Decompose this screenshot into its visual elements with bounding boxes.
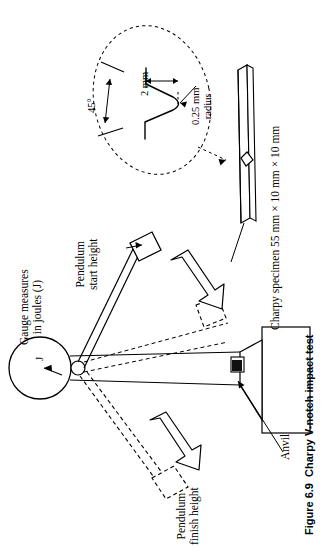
motion-arrow-return bbox=[150, 412, 201, 470]
figure-caption-number: Figure 6.9 bbox=[303, 483, 315, 535]
pendulum-pivot bbox=[71, 361, 85, 375]
motion-arrow-down bbox=[171, 250, 224, 309]
anvil-wedge bbox=[240, 340, 262, 420]
dimension-2mm bbox=[146, 74, 178, 104]
pendulum-finish-label: Pendulum finish height bbox=[175, 487, 201, 545]
figure-canvas bbox=[0, 0, 332, 555]
notch-radius-dimension: 0.25 mm radius bbox=[190, 88, 214, 125]
notch-width-dimension: 2 mm bbox=[139, 72, 151, 96]
specimen-label: Charpy specimen 55 mm × 10 mm × 10 mm bbox=[269, 126, 282, 330]
gauge-dial bbox=[9, 337, 71, 399]
callout-leader bbox=[198, 147, 226, 166]
gauge-circle bbox=[9, 337, 71, 399]
pendulum-start-label: Pendulum start height bbox=[74, 239, 100, 290]
charpy-specimen bbox=[231, 65, 256, 262]
charpy-impact-test-figure: Gauge measures in joules (J) J Pendulum … bbox=[0, 0, 332, 555]
dimension-45deg bbox=[98, 62, 124, 136]
figure-caption-title: Charpy V-notch impact test bbox=[303, 334, 315, 476]
machine-base bbox=[231, 327, 310, 433]
gauge-dial-symbol: J bbox=[33, 357, 45, 361]
figure-caption: Figure 6.9 Charpy V-notch impact test bbox=[303, 334, 315, 535]
notch-angle-dimension: 45° bbox=[86, 98, 98, 113]
pendulum-machine bbox=[9, 232, 310, 499]
gauge-label: Gauge measures in joules (J) bbox=[18, 269, 44, 345]
anvil-label: Anvil bbox=[279, 434, 292, 460]
figure-drawing bbox=[0, 0, 332, 555]
specimen-seat bbox=[232, 360, 242, 371]
pendulum-swing-path bbox=[84, 297, 228, 372]
